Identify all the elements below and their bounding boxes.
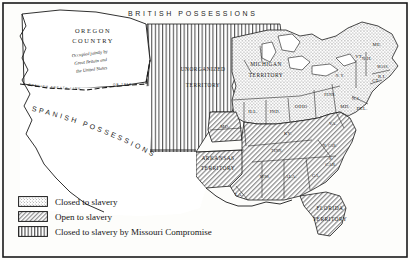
- legend-row-hatch: Open to slavery: [18, 211, 212, 222]
- legend-swatch-dots: [18, 196, 48, 207]
- state-label-ny: N. Y.: [336, 74, 344, 78]
- state-label-ncar: N. CAR.: [323, 144, 337, 148]
- missouri-compromise-map: BRITISH POSSESSIONS OREGON COUNTRY Occup…: [0, 0, 410, 260]
- label-florida-territory-line2: TERRITORY: [313, 216, 347, 222]
- label-arkansas-territory-line2: TERRITORY: [201, 165, 235, 171]
- legend-label-hatch: Open to slavery: [55, 212, 112, 222]
- state-label-ala: ALA.: [285, 174, 297, 179]
- state-label-scar1: S.: [329, 156, 333, 161]
- label-michigan-territory-line1: MICHIGAN: [250, 61, 282, 67]
- legend-label-dots: Closed to slavery: [55, 197, 118, 207]
- state-label-del: DEL.: [356, 106, 367, 111]
- state-label-penn: PENN.: [324, 93, 335, 97]
- legend-row-stripes: Closed to slavery by Missouri Compromise: [18, 226, 212, 237]
- map-legend: Closed to slavery Open to slavery Closed…: [18, 196, 212, 241]
- state-label-md: MD.: [340, 104, 349, 109]
- state-label-ohio: OHIO: [295, 104, 308, 109]
- state-label-conn: CT.: [372, 78, 379, 83]
- state-label-me: ME.: [373, 42, 382, 47]
- state-label-nh: N.H.: [362, 56, 372, 61]
- state-label-nj: N.J.: [352, 96, 360, 101]
- state-label-ill: ILL.: [248, 109, 257, 114]
- label-oregon-country-line1: OREGON: [75, 27, 111, 34]
- label-treaty-year: OF 1819: [113, 83, 132, 87]
- label-oregon-country-line2: COUNTRY: [72, 37, 114, 44]
- state-label-scar2: CAR.: [325, 162, 337, 167]
- legend-swatch-hatch: [18, 211, 48, 222]
- label-arkansas-territory-line1: ARKANSAS: [201, 155, 234, 161]
- state-label-la: LA.: [235, 192, 243, 197]
- label-british-possessions: BRITISH POSSESSIONS: [128, 10, 258, 17]
- label-unorganized-territory-line2: TERRITORY: [186, 82, 220, 88]
- state-label-ind: IND.: [270, 109, 280, 114]
- region-oregon-country: [22, 10, 150, 88]
- state-label-tenn: TENN.: [271, 149, 282, 153]
- state-label-miss: MISS.: [260, 175, 270, 179]
- state-label-mass: MASS.: [377, 65, 389, 69]
- label-florida-territory-line1: FLORIDA: [317, 205, 344, 211]
- legend-label-stripes: Closed to slavery by Missouri Compromise: [55, 227, 212, 237]
- state-label-ga: GA.: [312, 173, 321, 178]
- state-label-ky: KY.: [284, 131, 292, 136]
- label-michigan-territory-line2: TERRITORY: [249, 72, 283, 78]
- state-label-va: VA.: [329, 121, 337, 126]
- legend-swatch-stripes: [18, 226, 48, 237]
- label-unorganized-territory-line1: UNORGANIZED: [181, 66, 226, 72]
- legend-row-dots: Closed to slavery: [18, 196, 212, 207]
- state-label-mo: MO.: [220, 124, 229, 129]
